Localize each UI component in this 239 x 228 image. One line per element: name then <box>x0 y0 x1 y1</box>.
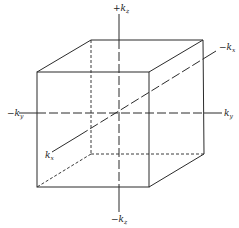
kx-negative-label: −kx <box>219 42 236 53</box>
back-right-vertical-edge <box>203 40 204 154</box>
front-face <box>37 72 149 187</box>
kz-positive-label: +kz <box>113 3 130 14</box>
kx-axis-back <box>203 51 216 59</box>
kz-negative-label: −kz <box>111 214 128 225</box>
top-right-depth-edge <box>149 40 203 72</box>
ky-negative-label: −ky <box>7 108 24 120</box>
top-left-depth-edge <box>37 40 91 72</box>
bottom-right-depth-edge <box>149 154 204 187</box>
kx-axis-inner <box>80 59 203 135</box>
cube-diagram: +kz −kz −ky ky kx −kx <box>0 0 239 228</box>
kx-axis-front <box>52 135 80 152</box>
ky-positive-label: ky <box>224 108 233 120</box>
